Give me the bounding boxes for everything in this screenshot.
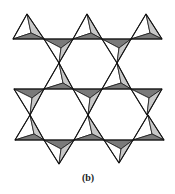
tetrahedron-up xyxy=(102,63,131,89)
tetrahedron-up xyxy=(133,115,164,140)
tetrahedron-down xyxy=(102,39,131,63)
figure-caption: (b) xyxy=(0,171,175,185)
tetrahedron-down xyxy=(14,89,44,115)
tetrahedron-up xyxy=(44,63,73,89)
kagome-tetrahedra-diagram xyxy=(0,0,175,194)
tetrahedron-up xyxy=(13,14,44,39)
tetrahedron-up xyxy=(73,14,102,39)
tetrahedron-down xyxy=(131,89,162,115)
tetrahedra-group xyxy=(13,14,164,164)
tetrahedron-down xyxy=(44,39,73,63)
tetrahedron-down xyxy=(73,89,102,115)
tetrahedron-up xyxy=(15,115,44,140)
tetrahedron-up xyxy=(74,115,104,140)
tetrahedron-down xyxy=(44,140,74,164)
tetrahedron-down xyxy=(104,140,133,163)
tetrahedron-up xyxy=(131,14,162,39)
